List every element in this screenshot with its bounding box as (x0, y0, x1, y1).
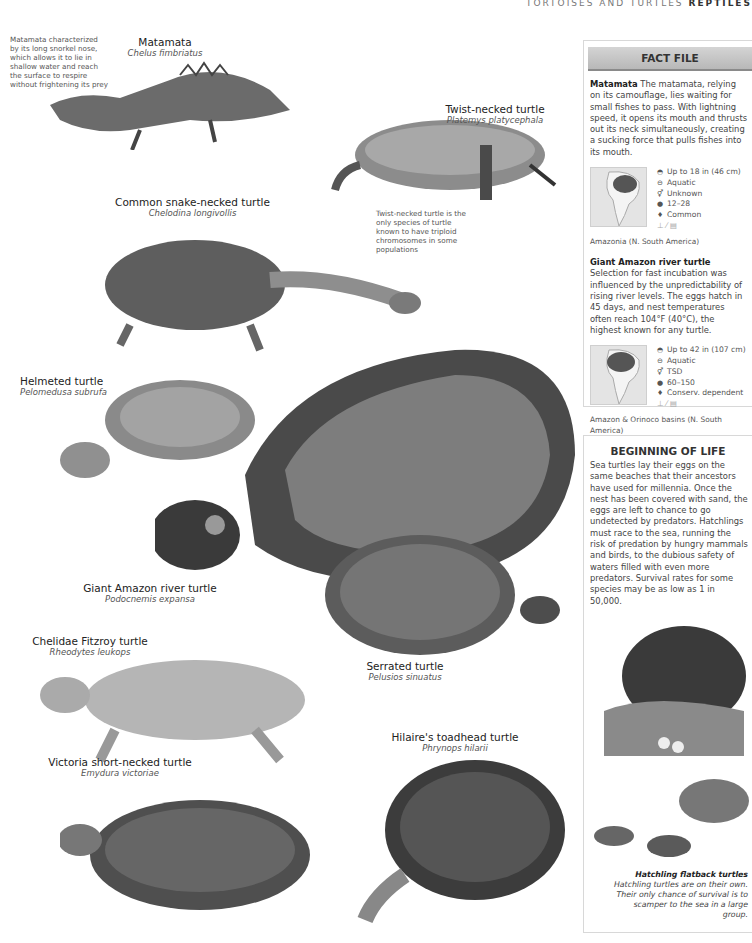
fact-entry-name: Giant Amazon river turtle (590, 257, 710, 267)
sex-icon: ⚥ (657, 367, 667, 378)
turtle-size-icon: ◓ (657, 345, 667, 356)
running-head-section: TORTOISES AND TURTLES (526, 0, 684, 8)
species-label-helmeted: Helmeted turtle Pelomedusa subrufa (20, 375, 120, 397)
species-label-fitzroy: Chelidae Fitzroy turtle Rheodytes leukop… (20, 635, 160, 657)
range-map (590, 167, 647, 227)
species-label-twist-necked: Twist-necked turtle Platemys platycephal… (425, 103, 565, 125)
serrated-turtle-illustration (320, 520, 560, 660)
species-label-snake-necked: Common snake-necked turtle Chelodina lon… (110, 196, 275, 218)
hatchlings-illustration (574, 771, 752, 871)
fact-entry-text: Selection for fast incubation was influe… (590, 268, 742, 334)
range-region: Amazonia (N. South America) (590, 236, 748, 247)
beginning-of-life-title: BEGINNING OF LIFE (584, 445, 752, 457)
range-map (590, 345, 647, 405)
water-icon: ⊖ (657, 356, 667, 367)
species-label-victoria: Victoria short-necked turtle Emydura vic… (40, 756, 200, 778)
running-head-title: REPTILES (688, 0, 752, 8)
toadhead-turtle-illustration (355, 755, 575, 940)
fact-file-title: FACT FILE (588, 47, 752, 71)
caption-title: Hatchling flatback turtles (613, 870, 748, 880)
stats-list: ◓Up to 42 in (107 cm) ⊖Aquatic ⚥TSD ●60–… (657, 345, 746, 410)
victoria-turtle-illustration (60, 790, 325, 930)
running-head: TORTOISES AND TURTLES REPTILES (526, 0, 752, 10)
matamata-illustration (40, 50, 300, 150)
beginning-of-life-text: Sea turtles lay their eggs on the same b… (584, 457, 752, 607)
stats-list: ◓Up to 18 in (46 cm) ⊖Aquatic ⚥Unknown ●… (657, 167, 741, 232)
fact-entry-matamata: Matamata The matamata, relying on its ca… (584, 71, 752, 247)
habitat-icons: ⊥ ⁄ ▤ (657, 399, 746, 410)
hatchling-caption: Hatchling flatback turtles Hatchling tur… (613, 870, 748, 920)
snake-necked-turtle-illustration (100, 225, 430, 355)
species-label-matamata: Matamata Chelus fimbriatus (110, 36, 220, 58)
water-icon: ⊖ (657, 178, 667, 189)
beginning-of-life-panel: BEGINNING OF LIFE Sea turtles lay their … (583, 435, 752, 933)
species-label-serrated: Serrated turtle Pelusios sinuatus (350, 660, 460, 682)
turtle-size-icon: ◓ (657, 167, 667, 178)
egg-icon: ● (657, 378, 667, 389)
twist-necked-turtle-illustration (330, 110, 560, 220)
fact-entry-name: Matamata (590, 79, 638, 89)
status-icon: ♦ (657, 210, 667, 221)
status-icon: ♦ (657, 388, 667, 399)
sex-icon: ⚥ (657, 189, 667, 200)
egg-icon: ● (657, 199, 667, 210)
caption-text: Hatchling turtles are on their own. Thei… (613, 880, 748, 920)
fact-file-panel: FACT FILE Matamata The matamata, relying… (583, 40, 752, 407)
species-label-giant-amazon: Giant Amazon river turtle Podocnemis exp… (70, 582, 230, 604)
nesting-turtle-illustration (594, 611, 752, 756)
fact-entry-giant-amazon: Giant Amazon river turtle Selection for … (584, 247, 752, 436)
fact-entry-text: The matamata, relying on its camouflage,… (590, 79, 747, 157)
range-region: Amazon & Orinoco basins (N. South Americ… (590, 414, 748, 437)
habitat-icons: ⊥ ⁄ ▤ (657, 221, 741, 232)
species-label-toadhead: Hilaire's toadhead turtle Phrynops hilar… (380, 731, 530, 753)
